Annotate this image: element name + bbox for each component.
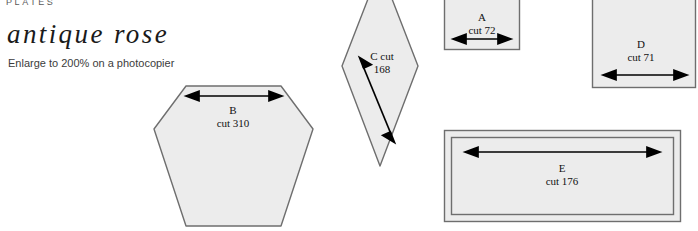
template-piece-e [440,126,688,226]
template-piece-d [588,0,698,92]
hexagon-shape-b [154,86,313,226]
template-piece-b [148,82,318,231]
kicker-text: PLATES [6,0,55,7]
rectangle-inner-shape-e [452,138,674,215]
square-shape-a [445,0,520,50]
header-block: PLATES antique rose Enlarge to 200% on a… [0,0,300,80]
page-subtitle: Enlarge to 200% on a photocopier [8,58,174,69]
template-piece-a [440,0,524,52]
template-piece-c [338,0,426,168]
diamond-shape-c [342,0,418,166]
page-title: antique rose [7,21,169,48]
